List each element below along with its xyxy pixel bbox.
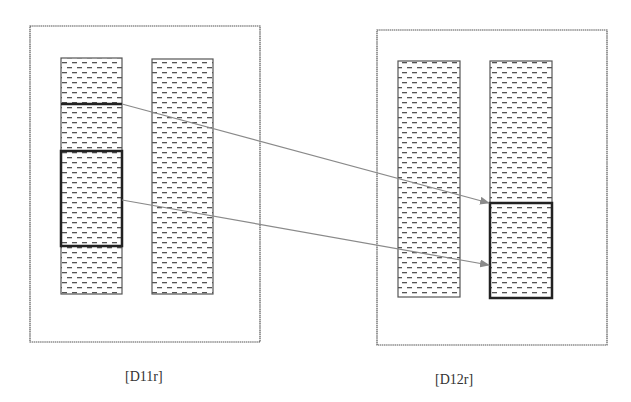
column-left — [398, 61, 460, 297]
column-left — [61, 58, 122, 294]
panel-d11r — [30, 26, 260, 342]
panel-label-d12r: [D12r] — [435, 372, 473, 388]
panel-d12r — [377, 30, 607, 345]
diagram-canvas — [0, 0, 631, 402]
column-right — [490, 61, 552, 298]
panel-label-d11r: [D11r] — [125, 369, 163, 385]
column-right — [152, 59, 213, 294]
